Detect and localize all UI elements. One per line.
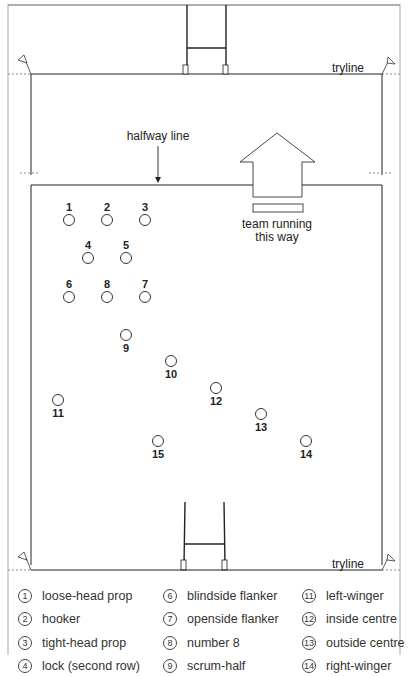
numbered-circle-icon: 8 xyxy=(163,636,177,650)
direction-arrow-icon xyxy=(240,133,315,212)
player-marker: 5 xyxy=(121,239,132,264)
corner-flag-icon xyxy=(18,55,31,74)
player-number: 10 xyxy=(165,368,177,380)
legend-item: 9scrum-half xyxy=(163,655,279,677)
tryline-label-bottom: tryline xyxy=(332,557,364,571)
player-circle-icon xyxy=(140,292,151,303)
numbered-circle-icon: 13 xyxy=(302,636,316,650)
player-circle-icon xyxy=(140,215,151,226)
player-circle-icon xyxy=(102,292,113,303)
player-number: 2 xyxy=(104,201,110,213)
legend-item: 7openside flanker xyxy=(163,608,279,632)
legend-item: 1loose-head prop xyxy=(18,584,140,608)
top-half xyxy=(8,74,400,175)
legend-label: right-winger xyxy=(326,659,391,673)
numbered-circle-icon: 9 xyxy=(163,659,177,673)
corner-flag-icon xyxy=(382,554,395,570)
player-marker: 13 xyxy=(255,409,267,434)
numbered-circle-icon: 12 xyxy=(302,612,316,626)
player-marker: 1 xyxy=(64,201,75,226)
player-circle-icon xyxy=(83,253,94,264)
legend-label: loose-head prop xyxy=(42,589,132,603)
legend-label: outside centre xyxy=(326,636,405,650)
player-number: 6 xyxy=(66,278,72,290)
player-marker: 15 xyxy=(152,436,164,461)
player-number: 9 xyxy=(123,342,129,354)
player-marker: 11 xyxy=(52,395,64,420)
bottom-goal-posts xyxy=(181,502,227,570)
player-circle-icon xyxy=(64,292,75,303)
player-marker: 4 xyxy=(83,239,94,264)
direction-label: team running xyxy=(242,217,312,231)
player-number: 14 xyxy=(300,448,313,460)
legend-column-3: 11left-winger12inside centre13outside ce… xyxy=(302,584,405,677)
numbered-circle-icon: 6 xyxy=(163,589,177,603)
legend-item: 13outside centre xyxy=(302,631,405,655)
player-circle-icon xyxy=(256,409,267,420)
legend-item: 14right-winger xyxy=(302,655,405,677)
numbered-circle-icon: 4 xyxy=(18,659,32,673)
player-circle-icon xyxy=(301,436,312,447)
numbered-circle-icon: 7 xyxy=(163,612,177,626)
legend-label: blindside flanker xyxy=(187,589,277,603)
player-marker: 14 xyxy=(300,436,313,461)
legend-label: number 8 xyxy=(187,636,240,650)
player-circle-icon xyxy=(102,215,113,226)
legend-label: left-winger xyxy=(326,589,384,603)
top-goal-posts xyxy=(183,5,228,74)
legend: 1loose-head prop2hooker3tight-head prop4… xyxy=(18,584,408,655)
player-circle-icon xyxy=(64,215,75,226)
player-marker: 7 xyxy=(140,278,151,303)
direction-label: this way xyxy=(255,230,298,244)
legend-item: 3tight-head prop xyxy=(18,631,140,655)
player-marker: 12 xyxy=(210,383,222,408)
tryline-label-top: tryline xyxy=(332,61,364,75)
legend-label: lock (second row) xyxy=(42,659,140,673)
legend-label: hooker xyxy=(42,612,80,626)
field xyxy=(31,185,382,565)
player-number: 4 xyxy=(85,239,92,251)
corner-flag-icon xyxy=(18,552,31,570)
halfway-line-label: halfway line xyxy=(127,129,190,143)
legend-label: openside flanker xyxy=(187,612,279,626)
numbered-circle-icon: 14 xyxy=(302,659,316,673)
legend-item: 8number 8 xyxy=(163,631,279,655)
legend-item: 2hooker xyxy=(18,608,140,632)
legend-item: 12inside centre xyxy=(302,608,405,632)
player-number: 8 xyxy=(104,278,110,290)
legend-column-2: 6blindside flanker7openside flanker8numb… xyxy=(163,584,279,677)
player-number: 15 xyxy=(152,448,164,460)
player-number: 11 xyxy=(52,407,64,419)
player-circle-icon xyxy=(153,436,164,447)
player-marker: 8 xyxy=(102,278,113,303)
player-number: 5 xyxy=(123,239,129,251)
player-marker: 6 xyxy=(64,278,75,303)
legend-item: 11left-winger xyxy=(302,584,405,608)
player-number: 1 xyxy=(66,201,72,213)
numbered-circle-icon: 2 xyxy=(18,612,32,626)
player-marker: 3 xyxy=(140,201,151,226)
player-number: 7 xyxy=(142,278,148,290)
legend-label: tight-head prop xyxy=(42,636,126,650)
corner-flag-icon xyxy=(382,57,395,74)
player-number: 12 xyxy=(210,395,222,407)
legend-label: scrum-half xyxy=(187,659,245,673)
player-number: 13 xyxy=(255,421,267,433)
player-number: 3 xyxy=(142,201,148,213)
player-circle-icon xyxy=(166,356,177,367)
player-circle-icon xyxy=(121,253,132,264)
player-circle-icon xyxy=(53,395,64,406)
legend-column-1: 1loose-head prop2hooker3tight-head prop4… xyxy=(18,584,140,677)
player-circle-icon xyxy=(121,330,132,341)
player-marker: 2 xyxy=(102,201,113,226)
player-circle-icon xyxy=(211,383,222,394)
numbered-circle-icon: 1 xyxy=(18,589,32,603)
numbered-circle-icon: 3 xyxy=(18,636,32,650)
legend-label: inside centre xyxy=(326,612,397,626)
numbered-circle-icon: 11 xyxy=(302,589,316,603)
player-marker: 9 xyxy=(121,330,132,355)
legend-item: 6blindside flanker xyxy=(163,584,279,608)
legend-item: 4lock (second row) xyxy=(18,655,140,677)
player-marker: 10 xyxy=(165,356,177,381)
